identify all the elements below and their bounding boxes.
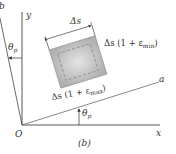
b-axis-label: b: [0, 1, 5, 11]
theta-y-label: θp: [8, 42, 17, 54]
x-axis-label: x: [156, 128, 161, 138]
figure-caption: (b): [78, 138, 91, 148]
strain-diagram: b y x a O θp θp Δs Δs (1 + εmin) Δs (1 +…: [0, 0, 176, 154]
b-axis: [0, 18, 22, 125]
element-label-min: Δs (1 + εmin): [104, 38, 158, 49]
strained-element: [45, 22, 107, 88]
element-width-label: Δs: [69, 16, 81, 26]
element-label-max: Δs (1 + εmax): [51, 83, 107, 103]
y-axis-label: y: [25, 10, 32, 20]
a-axis-label: a: [159, 74, 164, 84]
origin-label: O: [15, 129, 23, 139]
theta-x-label: θp: [82, 108, 91, 120]
